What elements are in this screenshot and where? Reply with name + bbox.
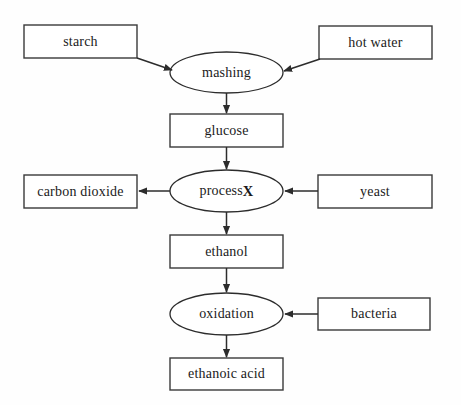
node-shape-oxidation[interactable] [170, 293, 283, 335]
edge-starch-to-mashing [137, 58, 172, 70]
node-shape-hot-water[interactable] [319, 26, 432, 59]
node-shape-bacteria[interactable] [318, 298, 430, 330]
node-shape-ethanol[interactable] [170, 235, 283, 268]
node-shape-carbon-dioxide[interactable] [24, 175, 137, 208]
edge-hot-water-to-mashing [284, 59, 320, 71]
node-shape-process-x[interactable] [170, 170, 283, 212]
flowchart-graphics [0, 0, 461, 405]
node-shape-starch[interactable] [24, 25, 137, 58]
node-shape-mashing[interactable] [170, 52, 283, 93]
node-shape-ethanoic-acid[interactable] [170, 358, 283, 390]
flowchart-canvas: starch hot water mashing glucose carbon … [0, 0, 461, 405]
node-shape-yeast[interactable] [318, 175, 432, 208]
node-shape-glucose[interactable] [170, 114, 283, 147]
